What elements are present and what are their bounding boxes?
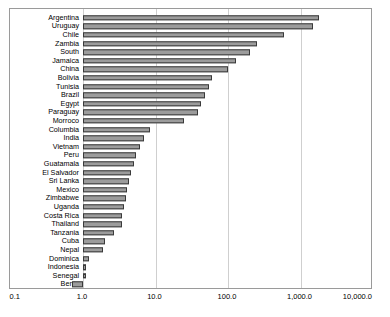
bar [83, 170, 131, 175]
bar [83, 256, 89, 261]
plot-area: ArgentinaUruguayChileZambiaSouthJamaicaC… [9, 8, 372, 289]
x-axis-tick-label: 1.0 [77, 292, 87, 301]
x-axis-tick-label: 10,000.0 [343, 292, 372, 301]
bar [83, 221, 122, 226]
bar [83, 239, 105, 244]
bar [83, 196, 126, 201]
x-axis-tick-label: 0.1 [10, 292, 20, 301]
bar [83, 127, 150, 132]
bar [83, 273, 86, 278]
bar [83, 144, 140, 149]
x-axis-tick-label: 10.0 [147, 292, 162, 301]
bar-chart: ArgentinaUruguayChileZambiaSouthJamaicaC… [0, 0, 390, 317]
x-axis-tick-label: 100.0 [218, 292, 237, 301]
bar [83, 15, 319, 20]
bar [83, 41, 257, 46]
bar [83, 110, 198, 115]
bar [83, 49, 250, 54]
bar [83, 204, 124, 209]
bar [83, 32, 284, 37]
bar [83, 213, 122, 218]
bar [83, 58, 236, 63]
bar [83, 135, 144, 140]
bar [83, 230, 114, 235]
x-axis-tick-label: 1,000.0 [287, 292, 312, 301]
bar [83, 247, 103, 252]
bar [72, 282, 83, 287]
bar [83, 264, 86, 269]
x-axis: 0.11.010.0100.01,000.010,000.0 [0, 292, 390, 312]
bar [83, 161, 134, 166]
bar [83, 67, 228, 72]
bar [83, 153, 136, 158]
bar-rows: ArgentinaUruguayChileZambiaSouthJamaicaC… [10, 9, 371, 288]
bar [83, 101, 201, 106]
bar [83, 75, 212, 80]
bar-row: Benin [10, 280, 371, 289]
bar [83, 118, 184, 123]
bar [83, 187, 127, 192]
bar [83, 24, 313, 29]
bar [83, 92, 205, 97]
bar [83, 84, 209, 89]
bar [83, 178, 129, 183]
